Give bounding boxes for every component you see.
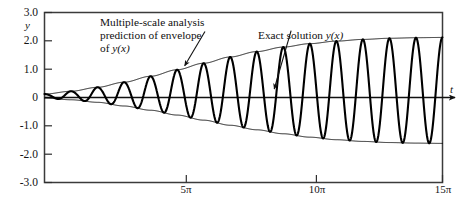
y-axis-name: y — [25, 20, 30, 32]
annotation-envelope: Multiple-scale analysis prediction of en… — [100, 16, 204, 56]
chart-canvas — [0, 0, 467, 205]
y-tick-label-neg1: -1.0 — [0, 119, 38, 131]
annotation-envelope-line1: Multiple-scale analysis — [100, 16, 204, 29]
x-tick-label-10pi: 10π — [294, 184, 340, 196]
figure-container: 3.0 2.0 1.0 0 -1.0 -2.0 -3.0 5π 10π 15π … — [0, 0, 467, 205]
y-tick-label-neg2: -2.0 — [0, 148, 38, 160]
annotation-exact-prefix: Exact solution — [258, 29, 326, 41]
y-tick-label-0: 0 — [6, 91, 38, 103]
annotation-exact-math: y(x) — [326, 29, 344, 41]
y-tick-label-3: 3.0 — [6, 6, 38, 18]
y-tick-label-neg3: -3.0 — [0, 176, 38, 188]
y-tick-label-2: 2.0 — [6, 34, 38, 46]
annotation-envelope-line3-prefix: of — [100, 42, 112, 54]
annotation-envelope-line3-math: y(x) — [112, 42, 130, 54]
x-tick-label-5pi: 5π — [166, 184, 206, 196]
x-tick-label-15pi: 15π — [420, 184, 466, 196]
annotation-envelope-line3: of y(x) — [100, 42, 204, 55]
x-axis-name: t — [450, 84, 453, 96]
y-tick-label-1: 1.0 — [6, 63, 38, 75]
x-axis-ticks — [186, 175, 442, 183]
annotation-envelope-line2: prediction of envelope — [100, 29, 204, 42]
annotation-exact: Exact solution y(x) — [258, 29, 343, 42]
